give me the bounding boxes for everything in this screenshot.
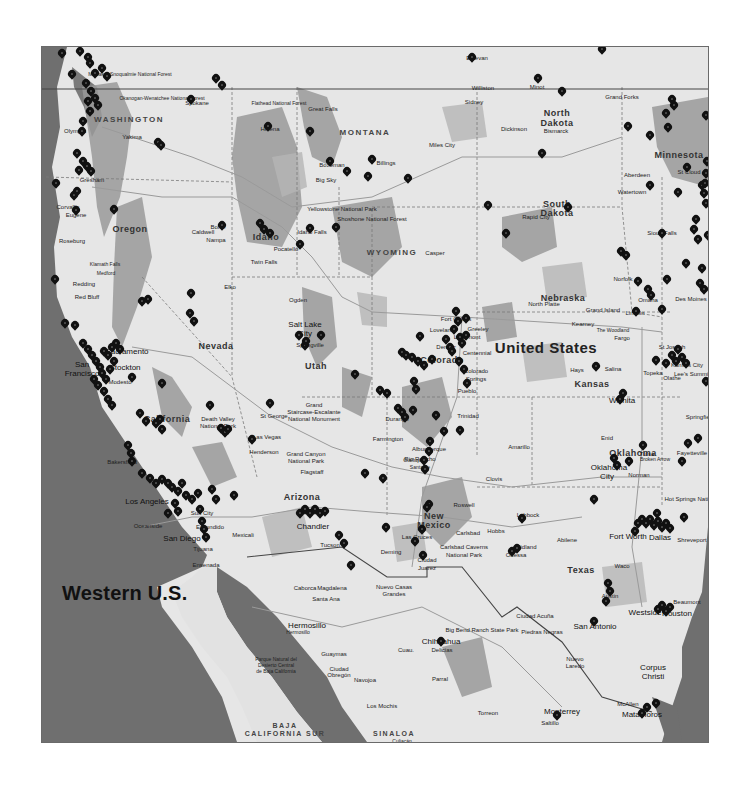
state-label-minnesota: Minnesota	[654, 151, 703, 160]
city-label: Medford	[97, 271, 115, 276]
city-label: Las Vegas	[253, 434, 281, 440]
city-label: Los Mochis	[367, 703, 397, 709]
city-label: Watertown	[618, 189, 646, 195]
city-label: Flagstaff	[301, 469, 324, 475]
city-label: Obregón	[327, 672, 350, 678]
state-label-baja-2: CALIFORNIA SUR	[245, 730, 326, 737]
state-label-washington: WASHINGTON	[94, 116, 164, 124]
city-label: Ensenada	[192, 562, 219, 568]
city-label: Piedras Negras	[521, 629, 562, 635]
city-label: Dallas	[649, 534, 671, 542]
city-label: Yellowstone National Park	[307, 206, 377, 212]
city-label: Big Bend Ranch State Park	[445, 627, 518, 633]
city-label: Grand Canyon	[286, 451, 325, 457]
city-label: Deming	[381, 549, 402, 555]
city-label: Death Valley	[201, 416, 235, 422]
city-label: North Platte	[528, 301, 560, 307]
city-label: Torreon	[478, 710, 498, 716]
city-label: Culiacán	[392, 739, 411, 744]
city-label: Grand Island	[586, 307, 620, 313]
city-label: Pocatello	[274, 246, 299, 252]
city-label: Hobbs	[487, 528, 504, 534]
city-label: Klamath Falls	[90, 262, 120, 267]
city-label: Red Bluff	[75, 294, 100, 300]
city-label: Navojoa	[354, 677, 376, 683]
city-label: Great Falls	[308, 106, 337, 112]
city-label: Saltillo	[541, 720, 559, 726]
city-label: City	[600, 473, 614, 481]
city-label: Hays	[570, 367, 584, 373]
city-label: The Woodland	[597, 328, 629, 333]
city-label: Modesto	[108, 379, 131, 385]
city-label: Parral	[432, 676, 448, 682]
city-label: Bismarck	[544, 128, 569, 134]
city-label: St George	[260, 413, 287, 419]
city-label: Sidney	[465, 99, 483, 105]
city-label: Flathead National Forest	[252, 101, 307, 106]
city-label: Beaumont	[673, 599, 700, 605]
state-label-arizona: Arizona	[284, 493, 321, 502]
city-label: Elko	[224, 284, 236, 290]
map-viewport[interactable]: WASHINGTON Oregon MONTANA Idaho WYOMING …	[41, 46, 709, 743]
state-label-north-dakota-1: North	[544, 109, 571, 118]
city-label: Trinidad	[457, 413, 478, 419]
city-label: Magdalena	[317, 585, 347, 591]
city-label: Centennial	[463, 350, 492, 356]
city-label: Casper	[425, 250, 444, 256]
city-label: Norfolk	[613, 276, 632, 282]
city-label: San	[75, 361, 89, 369]
city-label: Norman	[628, 472, 649, 478]
city-label: Mexicali	[232, 532, 254, 538]
state-label-baja-1: BAJA	[272, 722, 297, 729]
city-label: Hermosillo	[286, 630, 310, 635]
state-label-oregon: Oregon	[112, 225, 147, 234]
city-label: Fargo	[614, 335, 630, 341]
city-label: Aberdeen	[624, 172, 650, 178]
city-label: Billings	[376, 160, 395, 166]
city-label: Redding	[73, 281, 95, 287]
city-label: Carlsbad	[456, 530, 480, 536]
city-label: Gresham	[80, 177, 105, 183]
city-label: Broken Arrow	[640, 457, 670, 462]
city-label: Yakima	[122, 134, 142, 140]
city-label: Caldwell	[192, 229, 215, 235]
city-label: Enid	[601, 435, 613, 441]
city-label: Monterrey	[544, 708, 580, 716]
city-label: de Baja California	[256, 669, 295, 674]
city-label: Nampa	[206, 237, 225, 243]
city-label: Staircase-Escalante	[287, 409, 340, 415]
city-label: National Park	[446, 552, 482, 558]
city-label: Delicias	[431, 647, 452, 653]
city-label: Hot Springs National Park	[664, 496, 709, 502]
city-label: Pueblo	[458, 388, 477, 394]
city-label: National Monument	[288, 416, 340, 422]
city-label: Twin Falls	[251, 259, 278, 265]
city-label: Carlsbad Caverns	[440, 544, 488, 550]
city-label: Roseburg	[59, 238, 85, 244]
city-label: Farmington	[373, 436, 403, 442]
city-label: Rapid City	[522, 214, 550, 220]
city-label: Springfield	[686, 414, 709, 420]
state-label-nevada: Nevada	[198, 342, 233, 351]
city-label: Laredo	[566, 663, 585, 669]
city-label: Caborca	[294, 585, 317, 591]
state-label-north-dakota-2: Dakota	[540, 119, 573, 128]
city-label: Kearney	[572, 321, 594, 327]
city-label: Tucson	[320, 542, 339, 548]
city-label: Henderson	[249, 449, 278, 455]
city-label: Los Angeles	[125, 498, 169, 506]
city-label: Waco	[614, 563, 629, 569]
city-label: Nuevo Casas	[376, 584, 412, 590]
city-label: Chandler	[297, 523, 329, 531]
city-label: Grand	[306, 402, 323, 408]
city-label: Christi	[642, 673, 665, 681]
city-label: Des Moines	[675, 296, 707, 302]
city-label: Salt Lake	[288, 321, 321, 329]
city-label: Grandes	[382, 591, 405, 597]
state-label-texas: Texas	[567, 566, 594, 575]
city-label: Corpus	[640, 664, 666, 672]
city-label: Clovis	[486, 476, 502, 482]
city-label: Tijuana	[193, 546, 212, 552]
city-label: Topeka	[643, 370, 662, 376]
city-label: Salina	[605, 366, 622, 372]
